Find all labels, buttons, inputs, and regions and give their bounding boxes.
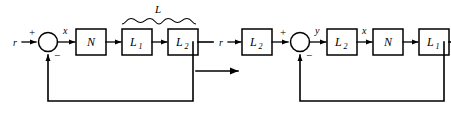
left-block-L2-label: L [175,35,183,49]
right-block-L2-prefilter [242,29,272,55]
left-brace-label: L [154,3,161,15]
right-block-L2-forward-label: L [334,35,342,49]
diagram-canvas: r + − x N L 1 L 2 L r [0,0,451,119]
right-signal-y-label: y [314,25,320,36]
right-block-L2-prefilter-subscript: 2 [259,42,263,51]
right-input-label: r [219,37,223,48]
left-summing-minus-sign: − [54,49,60,61]
left-brace-left-half [122,19,159,25]
left-input-label: r [13,37,17,48]
left-block-N-label: N [86,35,96,49]
left-block-L1-label: L [129,35,137,49]
right-signal-x-label: x [361,25,367,36]
right-block-L1-subscript: 1 [436,42,440,51]
left-block-L1 [122,29,152,55]
right-block-L2-forward [327,29,357,55]
left-block-L2-subscript: 2 [185,42,189,51]
right-summing-minus-sign: − [306,49,312,61]
right-block-N-label: N [383,35,393,49]
left-summing-plus-sign: + [29,26,35,38]
left-block-L1-subscript: 1 [139,42,143,51]
left-brace-right-half [159,19,196,25]
left-signal-x-label: x [62,25,68,36]
right-summing-plus-sign: + [280,26,286,38]
block-diagram-figure: r + − x N L 1 L 2 L r [0,0,451,119]
right-block-L2-forward-subscript: 2 [344,42,348,51]
right-block-L2-prefilter-label: L [249,35,257,49]
right-block-L1-label: L [426,35,434,49]
